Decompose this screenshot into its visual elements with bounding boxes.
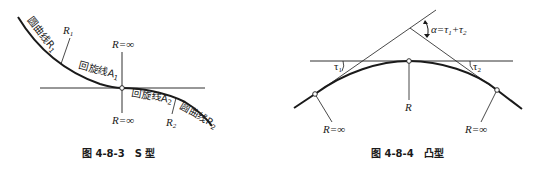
circular-curve-r2-label: 圆曲线R2 — [177, 99, 220, 132]
figure-4-8-4-caption: 图 4-8-4凸型 — [371, 147, 444, 159]
alpha-label: α=τ1+τ2 — [431, 23, 467, 37]
left-tangent-point — [313, 92, 318, 97]
r-infinity-bottom-label: R=∞ — [111, 114, 134, 126]
radius-r-label: R — [404, 101, 412, 113]
figure-s-type: R1 圆曲线R1 回旋线A1 R=∞ R=∞ 回旋线A2 R2 圆曲线R2 图 … — [18, 14, 220, 159]
r2-leader-line — [172, 98, 176, 114]
alpha-arrow-bottom — [424, 34, 430, 38]
tau1-label: τ1 — [334, 60, 342, 74]
r1-leader-line — [61, 38, 70, 64]
r-infinity-top-label: R=∞ — [111, 38, 134, 50]
alpha-arrow-top — [423, 20, 428, 24]
left-leader-line — [315, 94, 332, 122]
figure-4-8-3-caption: 图 4-8-3S 型 — [82, 147, 155, 159]
spiral-a2-label: 回旋线A2 — [130, 86, 173, 107]
r-infinity-left-label: R=∞ — [322, 123, 345, 135]
spiral-a1-label: 回旋线A1 — [77, 58, 121, 82]
r2-label: R2 — [165, 116, 177, 130]
right-leader-line — [481, 90, 497, 122]
r-infinity-right-label: R=∞ — [464, 123, 487, 135]
apex-point — [407, 59, 412, 64]
tau2-label: τ2 — [473, 60, 481, 74]
tau1-angle-arc — [342, 61, 344, 71]
inflection-point — [120, 86, 125, 91]
diagram-canvas: R1 圆曲线R1 回旋线A1 R=∞ R=∞ 回旋线A2 R2 圆曲线R2 图 … — [0, 0, 537, 170]
figure-convex-type: α=τ1+τ2 τ1 τ2 R R=∞ R=∞ 图 4-8-4凸型 — [294, 10, 522, 159]
right-tangent-point — [495, 88, 500, 93]
r1-label: R1 — [62, 24, 73, 38]
